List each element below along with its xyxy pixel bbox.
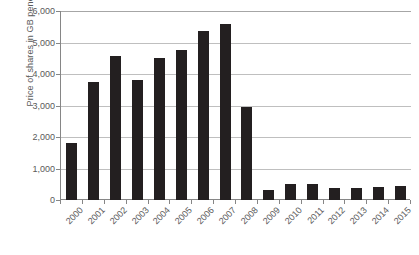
bar-slot <box>302 11 324 200</box>
bar-2006[interactable] <box>198 31 209 200</box>
x-axis-tick-mark <box>323 200 324 204</box>
y-axis-tick-mark <box>56 11 60 12</box>
y-axis-tick-label: 3,000 <box>3 101 55 111</box>
bar-2014[interactable] <box>373 187 384 200</box>
bar-chart: Price of shares in GB pence 01,0002,0003… <box>0 0 419 255</box>
bar-2010[interactable] <box>285 184 296 200</box>
y-axis-tick-mark <box>56 137 60 138</box>
x-axis-tick-mark <box>366 200 367 204</box>
plot-area <box>60 11 410 200</box>
bar-slot <box>192 11 214 200</box>
bar-2002[interactable] <box>110 56 121 200</box>
bar-2012[interactable] <box>329 188 340 200</box>
bar-slot <box>345 11 367 200</box>
x-axis-tick-labels: 2000200120022003200420052006200720082009… <box>60 205 410 255</box>
x-axis-tick-mark <box>279 200 280 204</box>
y-axis-tick-label: 1,000 <box>3 164 55 174</box>
bar-slot <box>83 11 105 200</box>
x-axis-tick-mark <box>344 200 345 204</box>
x-axis-tick-mark <box>60 200 61 204</box>
y-axis-tick-mark <box>56 106 60 107</box>
bar-2011[interactable] <box>307 184 318 200</box>
y-axis-tick-label: 2,000 <box>3 132 55 142</box>
y-axis-tick-label: 0 <box>3 195 55 205</box>
bar-slot <box>367 11 389 200</box>
bar-2013[interactable] <box>351 188 362 200</box>
bar-2001[interactable] <box>88 82 99 200</box>
bar-slot <box>280 11 302 200</box>
bar-slot <box>61 11 83 200</box>
y-axis-tick-mark <box>56 169 60 170</box>
x-axis-tick-mark <box>126 200 127 204</box>
bar-slot <box>258 11 280 200</box>
x-axis-tick-mark <box>82 200 83 204</box>
y-axis-tick-label: 4,000 <box>3 69 55 79</box>
bar-2007[interactable] <box>220 24 231 200</box>
x-axis-tick-mark <box>388 200 389 204</box>
bar-2004[interactable] <box>154 58 165 200</box>
bar-slot <box>389 11 411 200</box>
bar-2003[interactable] <box>132 80 143 200</box>
x-axis-tick-mark <box>169 200 170 204</box>
x-axis-tick-mark <box>191 200 192 204</box>
x-axis-tick-mark <box>301 200 302 204</box>
y-axis-tick-label: 6,000 <box>3 6 55 16</box>
bar-slot <box>236 11 258 200</box>
bar-slot <box>170 11 192 200</box>
bar-2009[interactable] <box>263 190 274 200</box>
x-axis-tick-mark <box>148 200 149 204</box>
bar-2000[interactable] <box>66 143 77 200</box>
x-axis-tick-mark <box>213 200 214 204</box>
bar-slot <box>127 11 149 200</box>
bar-2005[interactable] <box>176 50 187 200</box>
y-axis-tick-label: 5,000 <box>3 38 55 48</box>
x-axis-tick-mark <box>257 200 258 204</box>
bar-2008[interactable] <box>241 107 252 200</box>
bar-slot <box>149 11 171 200</box>
bar-2015[interactable] <box>395 186 406 200</box>
x-axis-tick-mark <box>235 200 236 204</box>
bar-slot <box>324 11 346 200</box>
bar-slot <box>214 11 236 200</box>
y-axis-tick-mark <box>56 43 60 44</box>
y-axis-tick-mark <box>56 74 60 75</box>
x-axis-tick-mark <box>410 200 411 204</box>
x-axis-tick-mark <box>104 200 105 204</box>
bar-slot <box>105 11 127 200</box>
bars-group <box>61 11 411 200</box>
